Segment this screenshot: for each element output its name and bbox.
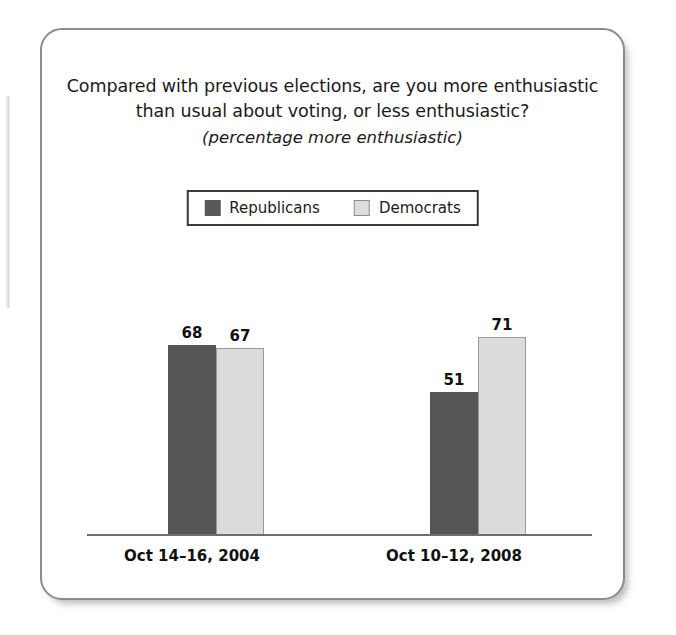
bar-value-2008-democrats: 71 xyxy=(478,316,526,334)
legend-swatch-republicans-icon xyxy=(204,200,220,216)
bar-group-2008: 51 71 xyxy=(430,306,526,534)
chart-legend: Republicans Democrats xyxy=(186,190,479,226)
bar-value-2008-republicans: 51 xyxy=(430,371,478,389)
bar-wrap-2008-democrats: 71 xyxy=(478,337,526,534)
scan-artifact xyxy=(5,96,10,308)
bar-2008-republicans xyxy=(430,392,478,534)
x-axis-label-2004: Oct 14–16, 2004 xyxy=(92,547,292,565)
chart-subtitle: (percentage more enthusiastic) xyxy=(42,125,623,150)
chart-title-line-1: Compared with previous elections, are yo… xyxy=(42,74,623,99)
plot-area: 68 67 51 71 Oct 14–16, 2004 Oct 10–12, 2… xyxy=(87,306,592,536)
legend-swatch-democrats-icon xyxy=(354,200,370,216)
legend-item-democrats: Democrats xyxy=(354,199,461,217)
bar-value-2004-democrats: 67 xyxy=(216,327,264,345)
bar-wrap-2004-democrats: 67 xyxy=(216,348,264,534)
bar-2004-republicans xyxy=(168,345,216,534)
bar-wrap-2008-republicans: 51 xyxy=(430,392,478,534)
bar-2008-democrats xyxy=(478,337,526,534)
bar-group-2004: 68 67 xyxy=(168,306,264,534)
x-axis-line xyxy=(87,534,592,536)
legend-label-republicans: Republicans xyxy=(229,199,320,217)
chart-title-block: Compared with previous elections, are yo… xyxy=(42,74,623,150)
bar-wrap-2004-republicans: 68 xyxy=(168,345,216,534)
legend-item-republicans: Republicans xyxy=(204,199,320,217)
legend-label-democrats: Democrats xyxy=(379,199,461,217)
x-axis-label-2008: Oct 10–12, 2008 xyxy=(354,547,554,565)
bar-2004-democrats xyxy=(216,348,264,534)
bar-value-2004-republicans: 68 xyxy=(168,324,216,342)
chart-title-line-2: than usual about voting, or less enthusi… xyxy=(42,99,623,124)
figure-card: Compared with previous elections, are yo… xyxy=(40,28,625,600)
